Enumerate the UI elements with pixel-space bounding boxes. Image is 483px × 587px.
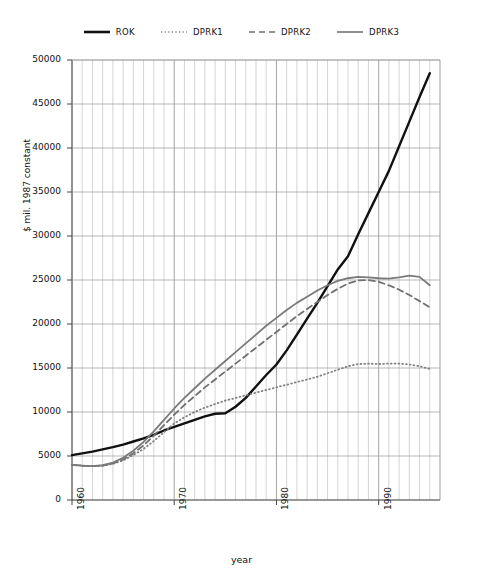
- x-tick-label: 1960: [76, 487, 86, 510]
- y-tick-label: 45000: [15, 98, 61, 108]
- series-line-dprk3: [72, 276, 430, 467]
- y-tick-label: 0: [15, 494, 61, 504]
- y-tick-label: 50000: [15, 54, 61, 64]
- y-tick-label: 10000: [15, 406, 61, 416]
- series-line-dprk1: [72, 364, 430, 467]
- y-tick-label: 20000: [15, 318, 61, 328]
- chart-figure: ROKDPRK1DPRK2DPRK3 $ mil. 1987 constant …: [0, 0, 483, 587]
- x-tick-label: 1990: [383, 487, 393, 510]
- y-tick-label: 25000: [15, 274, 61, 284]
- y-tick-label: 40000: [15, 142, 61, 152]
- y-tick-label: 15000: [15, 362, 61, 372]
- y-tick-label: 35000: [15, 186, 61, 196]
- x-tick-label: 1970: [178, 487, 188, 510]
- y-tick-label: 5000: [15, 450, 61, 460]
- y-tick-label: 30000: [15, 230, 61, 240]
- series-line-dprk2: [72, 280, 430, 466]
- series-line-rok: [72, 73, 430, 455]
- x-tick-label: 1980: [280, 487, 290, 510]
- chart-plot-area: [0, 0, 483, 587]
